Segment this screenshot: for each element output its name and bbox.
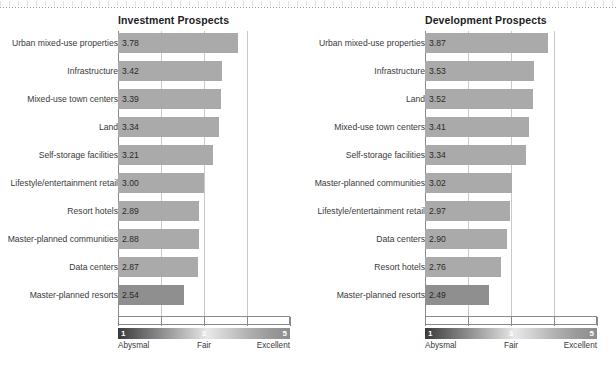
bar-category-label: Resort hotels: [310, 257, 425, 277]
table-row: Lifestyle/entertainment retail2.97: [307, 201, 608, 221]
bar-category-label: Resort hotels: [3, 201, 118, 221]
plot-area-investment: Urban mixed-use properties3.78Infrastruc…: [0, 31, 301, 316]
bar-value-label: 3.00: [122, 173, 139, 193]
bar-category-label: Land: [3, 117, 118, 137]
legend-gradient-development: 1 3 5: [425, 328, 597, 339]
legend-scale-mid: 3: [202, 328, 206, 339]
table-row: Resort hotels2.89: [0, 201, 301, 221]
legend-scale-max: 5: [590, 328, 594, 339]
bar-category-label: Self-storage facilities: [310, 145, 425, 165]
table-row: Infrastructure3.53: [307, 61, 608, 81]
bar-category-label: Urban mixed-use properties: [3, 33, 118, 53]
bar-value-label: 3.21: [122, 145, 139, 165]
bar-category-label: Master-planned communities: [310, 173, 425, 193]
bar-rows-development: Urban mixed-use properties3.87Infrastruc…: [307, 31, 608, 316]
legend-gradient-investment: 1 3 5: [118, 328, 290, 339]
bar-value-label: 2.89: [122, 201, 139, 221]
bar-value-label: 2.87: [122, 257, 139, 277]
bar-category-label: Master-planned resorts: [3, 285, 118, 305]
chart-page: Investment Prospects Urban mixed-use pro…: [0, 0, 616, 366]
axis-tick: [511, 317, 512, 326]
legend-scale-min: 1: [428, 328, 432, 339]
table-row: Land3.52: [307, 89, 608, 109]
table-row: Data centers2.90: [307, 229, 608, 249]
bar-value-label: 2.49: [429, 285, 446, 305]
axis-tick: [118, 317, 119, 326]
bar-category-label: Data centers: [3, 257, 118, 277]
legend-label-fair: Fair: [197, 341, 211, 350]
bar-value-label: 2.54: [122, 285, 139, 305]
legend-scale-max: 5: [283, 328, 287, 339]
bar-category-label: Infrastructure: [310, 61, 425, 81]
table-row: Self-storage facilities3.34: [307, 145, 608, 165]
bar-value-label: 3.34: [122, 117, 139, 137]
bar-rows-investment: Urban mixed-use properties3.78Infrastruc…: [0, 31, 301, 316]
panel-development-prospects: Development Prospects Urban mixed-use pr…: [307, 12, 608, 360]
table-row: Urban mixed-use properties3.78: [0, 33, 301, 53]
axis-tick: [468, 317, 469, 326]
legend-label-excellent: Excellent: [564, 341, 597, 350]
bar-value-label: 2.90: [429, 229, 446, 249]
bar-category-label: Self-storage facilities: [3, 145, 118, 165]
bar-value-label: 2.97: [429, 201, 446, 221]
chart-title-investment: Investment Prospects: [118, 14, 229, 26]
bar-value-label: 3.87: [429, 33, 446, 53]
table-row: Infrastructure3.42: [0, 61, 301, 81]
axis-tick: [290, 317, 291, 326]
bar-value-label: 3.34: [429, 145, 446, 165]
table-row: Master-planned resorts2.49: [307, 285, 608, 305]
chart-title-development: Development Prospects: [425, 14, 547, 26]
legend-labels-development: Abysmal Fair Excellent: [425, 341, 597, 353]
bar-category-label: Master-planned resorts: [310, 285, 425, 305]
axis-ticks-investment: [118, 316, 290, 325]
axis-ticks-development: [425, 316, 597, 325]
bar-value-label: 3.53: [429, 61, 446, 81]
axis-tick: [161, 317, 162, 326]
axis-tick: [554, 317, 555, 326]
bar-category-label: Mixed-use town centers: [3, 89, 118, 109]
table-row: Land3.34: [0, 117, 301, 137]
legend-label-abysmal: Abysmal: [425, 341, 456, 350]
bar-value-label: 2.76: [429, 257, 446, 277]
bar-value-label: 3.52: [429, 89, 446, 109]
table-row: Mixed-use town centers3.41: [307, 117, 608, 137]
table-row: Master-planned communities3.02: [307, 173, 608, 193]
legend-scale-min: 1: [121, 328, 125, 339]
axis-tick: [247, 317, 248, 326]
bar-category-label: Land: [310, 89, 425, 109]
bar-category-label: Master-planned communities: [3, 229, 118, 249]
legend-label-fair: Fair: [504, 341, 518, 350]
bar-value-label: 3.78: [122, 33, 139, 53]
axis-tick: [204, 317, 205, 326]
legend-labels-investment: Abysmal Fair Excellent: [118, 341, 290, 353]
top-dotted-rule: [0, 7, 616, 8]
plot-area-development: Urban mixed-use properties3.87Infrastruc…: [307, 31, 608, 316]
table-row: Self-storage facilities3.21: [0, 145, 301, 165]
table-row: Resort hotels2.76: [307, 257, 608, 277]
bar-category-label: Urban mixed-use properties: [310, 33, 425, 53]
legend-scale-mid: 3: [509, 328, 513, 339]
table-row: Master-planned communities2.88: [0, 229, 301, 249]
panel-investment-prospects: Investment Prospects Urban mixed-use pro…: [0, 12, 301, 360]
bar-value-label: 3.02: [429, 173, 446, 193]
legend-label-abysmal: Abysmal: [118, 341, 149, 350]
bar-category-label: Lifestyle/entertainment retail: [310, 201, 425, 221]
top-dotted-rule-faint: [0, 1, 616, 6]
bar-value-label: 3.42: [122, 61, 139, 81]
bar-category-label: Data centers: [310, 229, 425, 249]
bar-value-label: 3.41: [429, 117, 446, 137]
axis-tick: [597, 317, 598, 326]
table-row: Mixed-use town centers3.39: [0, 89, 301, 109]
bar-category-label: Mixed-use town centers: [310, 117, 425, 137]
table-row: Data centers2.87: [0, 257, 301, 277]
legend-label-excellent: Excellent: [257, 341, 290, 350]
axis-tick: [425, 317, 426, 326]
table-row: Lifestyle/entertainment retail3.00: [0, 173, 301, 193]
table-row: Urban mixed-use properties3.87: [307, 33, 608, 53]
bar-category-label: Lifestyle/entertainment retail: [3, 173, 118, 193]
bar-value-label: 2.88: [122, 229, 139, 249]
table-row: Master-planned resorts2.54: [0, 285, 301, 305]
bar-value-label: 3.39: [122, 89, 139, 109]
bar-category-label: Infrastructure: [3, 61, 118, 81]
